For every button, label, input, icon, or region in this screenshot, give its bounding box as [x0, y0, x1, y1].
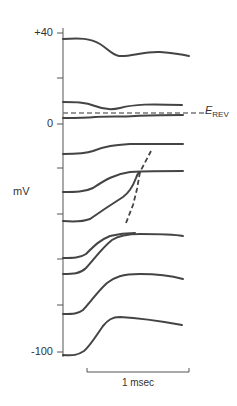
- y-tick-label-plus40: +40: [23, 26, 53, 38]
- trace-1: [63, 39, 189, 57]
- trace-4: [63, 144, 183, 154]
- trace-10: [63, 317, 182, 355]
- trace-2: [63, 102, 182, 109]
- y-axis: [57, 28, 63, 357]
- erev-label: EREV: [205, 104, 229, 119]
- y-axis-label: mV: [13, 185, 30, 197]
- trace-3: [63, 115, 183, 118]
- scale-bar-label: 1 msec: [98, 377, 178, 388]
- trace-6: [63, 172, 140, 222]
- peak-locus-dashed-line: [126, 151, 151, 223]
- y-tick-label-0: 0: [23, 117, 53, 129]
- trace-8: [63, 234, 183, 274]
- traces: [63, 39, 189, 356]
- trace-9: [63, 274, 183, 314]
- erev-label-sub: REV: [212, 110, 228, 119]
- y-tick-label-minus100: -100: [23, 345, 53, 357]
- trace-5: [63, 171, 183, 192]
- scale-bar: [87, 368, 189, 372]
